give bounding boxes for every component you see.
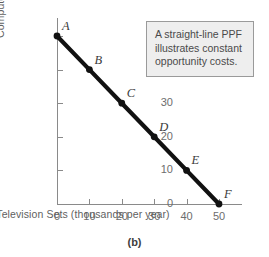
x-axis-title: Television Sets (thousands per year) <box>0 208 218 220</box>
data-point-marker <box>86 66 93 73</box>
y-axis-title: Computers (thousands per year) <box>0 0 6 38</box>
data-point-label: C <box>127 87 135 99</box>
data-point-label: E <box>192 154 200 166</box>
data-point-label: A <box>62 20 70 32</box>
data-point-label: F <box>224 188 232 200</box>
data-point-label: D <box>159 121 168 133</box>
data-point-marker <box>118 100 125 107</box>
data-point-marker <box>216 201 223 208</box>
data-point-label: B <box>94 54 102 66</box>
data-point-marker <box>54 33 61 40</box>
ppf-figure: 01020304050 01020304050 ABCDEF Computers… <box>0 0 269 257</box>
callout-annotation-box: A straight-line PPF illustrates constant… <box>146 21 254 77</box>
figure-caption: (b) <box>0 236 269 248</box>
data-point-marker <box>151 133 158 140</box>
data-point-marker <box>183 167 190 174</box>
